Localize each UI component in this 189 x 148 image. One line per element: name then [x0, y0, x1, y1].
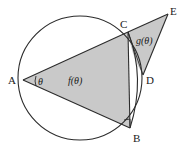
angle-label-theta: θ — [38, 76, 43, 87]
geometry-figure-container: A B C D E f(θ) g(θ) θ — [0, 0, 189, 148]
region-label-f-theta: f(θ) — [68, 75, 83, 87]
point-label-c: C — [120, 18, 127, 30]
point-label-a: A — [8, 74, 16, 86]
point-label-b: B — [133, 132, 140, 144]
geometry-diagram: A B C D E f(θ) g(θ) θ — [0, 0, 189, 148]
point-label-e: E — [170, 5, 177, 17]
region-label-g-theta: g(θ) — [136, 35, 153, 47]
point-label-d: D — [146, 74, 154, 86]
